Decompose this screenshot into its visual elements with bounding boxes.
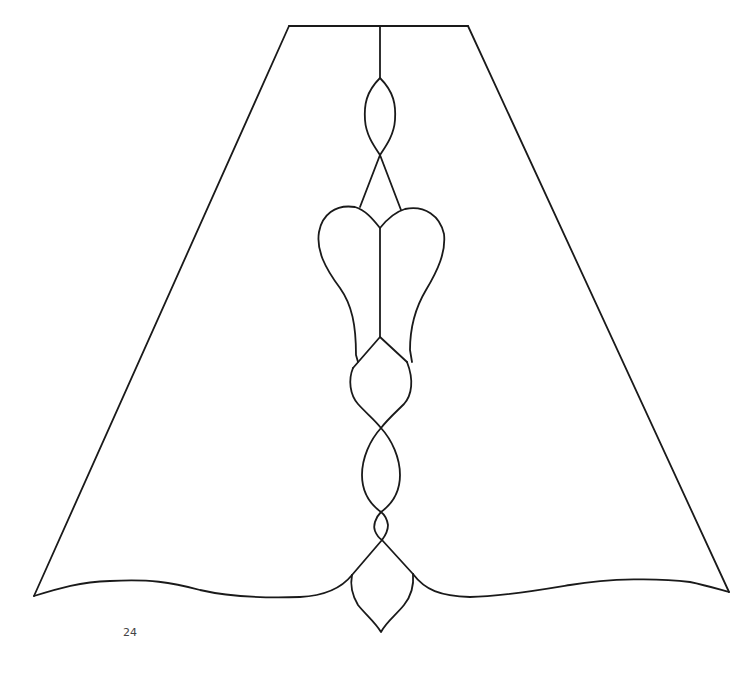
middle-round-lens xyxy=(350,362,411,428)
pendant-connectors xyxy=(352,540,413,575)
right-edge xyxy=(468,26,729,592)
bottom-pendant xyxy=(351,574,413,632)
lampshade-pattern-drawing xyxy=(0,0,751,678)
bottom-right-edge xyxy=(413,574,729,597)
top-lens xyxy=(365,78,395,155)
left-edge xyxy=(34,26,289,596)
page-number: 24 xyxy=(123,626,137,639)
lower-long-lens xyxy=(362,428,400,512)
heart-to-oval-lines xyxy=(353,337,407,368)
left-connector xyxy=(360,155,380,207)
right-connector xyxy=(380,155,401,210)
bottom-left-edge xyxy=(34,575,352,597)
small-lens xyxy=(374,512,388,540)
